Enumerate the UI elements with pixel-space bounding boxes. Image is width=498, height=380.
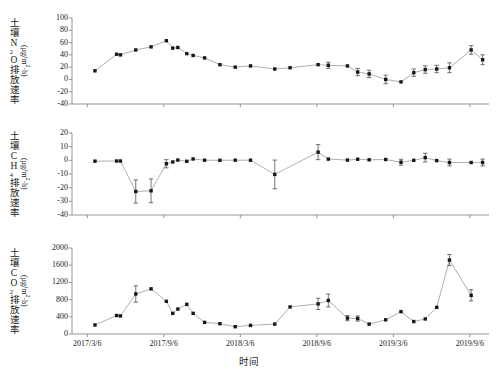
y-tick-label: 0 <box>36 329 68 338</box>
y-tick-label: 20 <box>36 62 68 71</box>
y-tick-label: -20 <box>36 87 68 96</box>
y-tick-label: 2000 <box>36 243 68 252</box>
y-axis-unit: (μg/m2·h) <box>20 275 31 307</box>
x-tick-label: 2018/3/6 <box>210 339 270 348</box>
x-tick-label: 2019/3/6 <box>363 339 423 348</box>
y-tick-label: 80 <box>36 25 68 34</box>
figure-root: 100806040200-20-40土壤N2O排放速率(μg/m2·h)2010… <box>0 0 498 380</box>
y-tick-label: 40 <box>36 50 68 59</box>
y-axis-title-text: 土壤N2O排放速率 <box>7 18 17 105</box>
y-axis-unit: (μg/m2·h) <box>20 158 31 190</box>
x-tick-label: 2017/3/6 <box>57 339 117 348</box>
panel-c-plot <box>0 0 498 380</box>
x-axis-title: 时间 <box>0 354 498 368</box>
y-tick-label: 1600 <box>36 260 68 269</box>
y-tick-label: 20 <box>36 128 68 137</box>
y-tick-label: -40 <box>36 99 68 108</box>
y-tick-label: 60 <box>36 38 68 47</box>
y-tick-label: -30 <box>36 196 68 205</box>
panel-b-plot <box>0 0 498 380</box>
y-axis-title-text: 土壤CH4排放速率 <box>7 131 17 218</box>
y-tick-label: -10 <box>36 169 68 178</box>
y-tick-label: 1200 <box>36 277 68 286</box>
y-axis-title-text: 土壤CO2排放速率 <box>7 248 17 335</box>
y-tick-label: 10 <box>36 142 68 151</box>
x-tick-label: 2018/9/6 <box>287 339 347 348</box>
y-axis-title: 土壤CH4排放速率(μg/m2·h) <box>2 133 36 215</box>
x-tick-label: 2019/9/6 <box>440 339 498 348</box>
panel-a-plot <box>0 0 498 380</box>
y-tick-label: -20 <box>36 183 68 192</box>
y-tick-label: -40 <box>36 210 68 219</box>
y-tick-label: 0 <box>36 155 68 164</box>
y-axis-unit: (μg/m2·h) <box>20 45 31 77</box>
x-tick-label: 2017/9/6 <box>134 339 194 348</box>
y-tick-label: 800 <box>36 295 68 304</box>
y-tick-label: 400 <box>36 312 68 321</box>
y-axis-title: 土壤CO2排放速率(μg/m2·h) <box>2 248 36 334</box>
y-tick-label: 100 <box>36 13 68 22</box>
y-axis-title: 土壤N2O排放速率(μg/m2·h) <box>2 18 36 104</box>
y-tick-label: 0 <box>36 74 68 83</box>
